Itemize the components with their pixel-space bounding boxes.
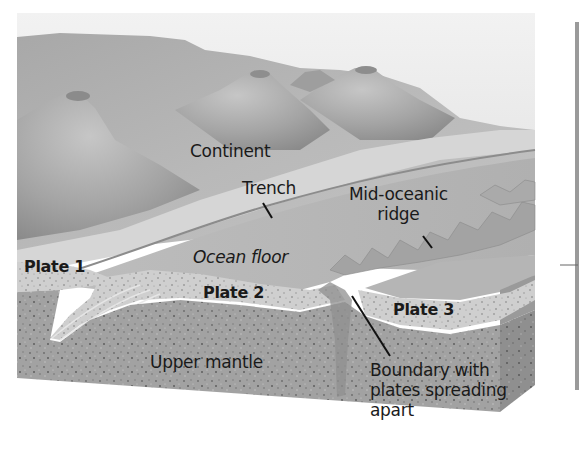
label-mid-oceanic-ridge: Mid-oceanic ridge (349, 184, 448, 224)
label-mid-oceanic-line-2: ridge (349, 204, 448, 224)
crater-left (66, 91, 90, 101)
crater-middle (250, 70, 270, 78)
label-boundary-spreading: Boundary with plates spreading apart (370, 360, 507, 420)
label-continent: Continent (190, 143, 270, 160)
crater-right (355, 66, 377, 74)
label-plate-3: Plate 3 (393, 302, 454, 318)
label-boundary-line-2: plates spreading (370, 380, 507, 400)
label-mid-oceanic-line-1: Mid-oceanic (349, 184, 448, 204)
label-boundary-line-3: apart (370, 400, 507, 420)
label-plate-2: Plate 2 (203, 285, 264, 301)
label-ocean-floor: Ocean floor (193, 249, 288, 266)
label-trench: Trench (242, 180, 296, 197)
label-upper-mantle: Upper mantle (150, 354, 263, 371)
adjacent-figure-edge (575, 22, 579, 390)
label-boundary-line-1: Boundary with (370, 360, 507, 380)
label-plate-1: Plate 1 (24, 259, 85, 275)
